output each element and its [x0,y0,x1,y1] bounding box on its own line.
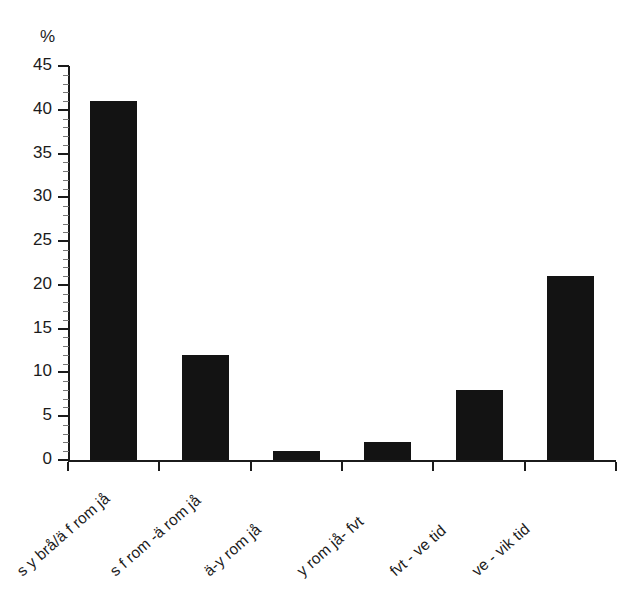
y-axis-minor-tick [63,381,69,382]
y-axis-tick-label-wrap: 30 [0,186,52,206]
y-axis-tick-label-wrap: 35 [0,143,52,163]
x-axis-category-label: s y brå/ä f rom jå [13,490,113,580]
y-axis-minor-tick [63,127,69,128]
y-axis-minor-tick [63,442,69,443]
x-axis-category-label: fvt - ve tid [386,522,449,580]
y-axis-minor-tick [63,215,69,216]
y-axis-tick [58,196,69,198]
y-axis-minor-tick [63,302,69,303]
y-axis-minor-tick [63,337,69,338]
y-axis-tick [58,415,69,417]
y-axis-minor-tick [63,399,69,400]
y-axis-minor-tick [63,451,69,452]
y-axis-tick-label-wrap: 0 [0,449,52,469]
y-axis-tick-label-wrap: 20 [0,274,52,294]
bar [90,101,137,460]
y-axis-minor-tick [63,162,69,163]
y-axis-tick [58,153,69,155]
y-axis-tick-label: 45 [6,55,52,75]
y-axis-minor-tick [63,224,69,225]
y-axis-tick-label: 0 [6,449,52,469]
y-axis-minor-tick [63,311,69,312]
y-axis-minor-tick [63,390,69,391]
y-axis-tick-label: 40 [6,99,52,119]
bar [456,390,503,460]
y-axis-minor-tick [63,259,69,260]
x-axis-tick [250,462,252,471]
y-axis-tick-label-wrap: 15 [0,318,52,338]
y-axis-minor-tick [63,75,69,76]
y-axis-unit-label: % [40,27,55,47]
y-axis-tick [58,65,69,67]
x-axis-category-label: y rom jå- fvt [293,512,367,580]
y-axis-minor-tick [63,294,69,295]
y-axis-tick [58,371,69,373]
y-axis-minor-tick [63,425,69,426]
y-axis-minor-tick [63,346,69,347]
bar [182,355,229,460]
y-axis-tick-label-wrap: 5 [0,405,52,425]
y-axis-tick-label: 15 [6,318,52,338]
y-axis-minor-tick [63,92,69,93]
y-axis-tick [58,328,69,330]
y-axis-tick-label-wrap: 45 [0,55,52,75]
x-axis-tick [615,462,617,471]
y-axis-tick-label: 5 [6,405,52,425]
bar [547,276,594,460]
y-axis-minor-tick [63,145,69,146]
y-axis-tick-label-wrap: 40 [0,99,52,119]
y-axis-tick-label: 30 [6,186,52,206]
y-axis-tick-label: 35 [6,143,52,163]
y-axis-tick [58,240,69,242]
y-axis-minor-tick [63,84,69,85]
x-axis-tick [341,462,343,471]
x-axis-category-label: s f rom -ä rom jå [106,491,204,580]
y-axis-tick [58,459,69,461]
x-axis-tick [524,462,526,471]
y-axis-minor-tick [63,232,69,233]
y-axis-minor-tick [63,136,69,137]
y-axis-tick-label: 20 [6,274,52,294]
y-axis-minor-tick [63,320,69,321]
y-axis-tick-label-wrap: 10 [0,361,52,381]
y-axis-minor-tick [63,206,69,207]
y-axis-minor-tick [63,267,69,268]
y-axis-minor-tick [63,355,69,356]
y-axis-minor-tick [63,434,69,435]
x-axis-tick [158,462,160,471]
y-axis-tick-label-wrap: 25 [0,230,52,250]
x-axis-tick [67,462,69,471]
y-axis-minor-tick [63,276,69,277]
y-axis-minor-tick [63,364,69,365]
y-axis-minor-tick [63,189,69,190]
y-axis-tick [58,109,69,111]
y-axis-line [68,66,70,462]
y-axis-minor-tick [63,250,69,251]
y-axis-tick [58,284,69,286]
y-axis-minor-tick [63,101,69,102]
y-axis-minor-tick [63,119,69,120]
bar [273,451,320,460]
y-axis-minor-tick [63,171,69,172]
x-axis-category-label: ve - vik tid [468,520,533,580]
y-axis-minor-tick [63,407,69,408]
y-axis-tick-label: 25 [6,230,52,250]
x-axis-category-label: ä-y rom jå [200,521,265,580]
x-axis-tick [432,462,434,471]
bar [364,442,411,460]
y-axis-tick-label: 10 [6,361,52,381]
y-axis-minor-tick [63,180,69,181]
bar-chart: % 051015202530354045 s y brå/ä f rom jås… [0,0,640,601]
